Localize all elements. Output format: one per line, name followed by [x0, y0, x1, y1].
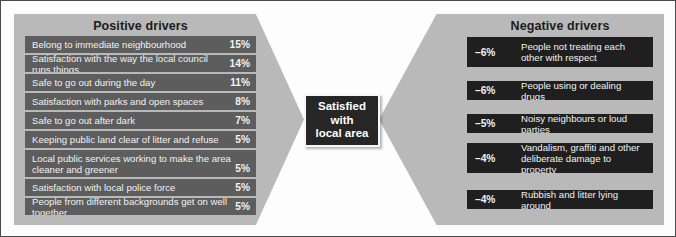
negative-bar-value: –4% [475, 194, 521, 205]
center-outcome-box: Satisfied with local area [304, 94, 380, 147]
negative-bar-value: –6% [475, 85, 521, 96]
negative-bar-label: Noisy neighbours or loud parties [521, 114, 647, 133]
positive-bar-row: Local public services working to make th… [25, 150, 256, 177]
negative-bar-label: People not treating each other with resp… [521, 41, 647, 63]
positive-bar-value: 5% [235, 134, 250, 145]
positive-bar-label: Satisfaction with local police force [32, 182, 179, 193]
positive-bar-label: Satisfaction with parks and open spaces [32, 96, 207, 107]
positive-bar-value: 11% [230, 77, 250, 88]
negative-bar-row: –6%People not treating each other with r… [467, 37, 653, 67]
positive-bar-row: Satisfaction with parks and open spaces8… [25, 93, 256, 110]
negative-bar-value: –4% [475, 153, 521, 164]
positive-bar-value: 5% [235, 163, 250, 174]
negative-bar-label: Rubbish and litter lying around [521, 190, 647, 209]
infographic-canvas: Positive drivers Negative drivers Belong… [0, 0, 676, 237]
positive-bar-value: 15% [230, 39, 250, 50]
negative-drivers-header: Negative drivers [467, 19, 653, 33]
negative-bar-value: –6% [475, 47, 521, 58]
positive-bar-label: Local public services working to make th… [32, 150, 235, 175]
positive-bar-value: 7% [235, 115, 250, 126]
positive-bar-row: Safe to go out after dark7% [25, 112, 256, 129]
positive-bar-value: 8% [235, 96, 250, 107]
positive-bar-row: Satisfaction with local police force5% [25, 179, 256, 196]
positive-bar-value: 14% [230, 58, 250, 69]
positive-drivers-header: Positive drivers [25, 19, 256, 33]
positive-bar-label: People from different backgrounds get on… [32, 198, 235, 215]
negative-bar-label: Vandalism, graffiti and other deliberate… [521, 143, 647, 173]
negative-bar-row: –4%Rubbish and litter lying around [467, 190, 653, 209]
negative-bar-row: –5%Noisy neighbours or loud parties [467, 114, 653, 133]
positive-bar-row: Safe to go out during the day11% [25, 74, 256, 91]
positive-bar-row: Satisfaction with the way the local coun… [25, 55, 256, 72]
negative-bar-label: People using or dealing drugs [521, 81, 647, 100]
positive-bar-value: 5% [235, 182, 250, 193]
positive-bar-row: Keeping public land clear of litter and … [25, 131, 256, 148]
positive-bar-label: Belong to immediate neighbourhood [32, 39, 190, 50]
negative-bar-row: –6%People using or dealing drugs [467, 81, 653, 100]
negative-bar-row: –4%Vandalism, graffiti and other deliber… [467, 143, 653, 173]
center-line-2: with [331, 114, 354, 128]
center-line-3: local area [315, 127, 368, 141]
positive-bar-row: Belong to immediate neighbourhood15% [25, 36, 256, 53]
positive-bar-label: Safe to go out after dark [32, 115, 139, 126]
positive-bar-row: People from different backgrounds get on… [25, 198, 256, 215]
positive-bar-label: Keeping public land clear of litter and … [32, 134, 223, 145]
positive-bar-value: 5% [235, 201, 250, 212]
negative-bar-value: –5% [475, 118, 521, 129]
center-line-1: Satisfied [318, 100, 366, 114]
positive-bar-label: Safe to go out during the day [32, 77, 159, 88]
positive-bar-label: Satisfaction with the way the local coun… [32, 55, 230, 72]
